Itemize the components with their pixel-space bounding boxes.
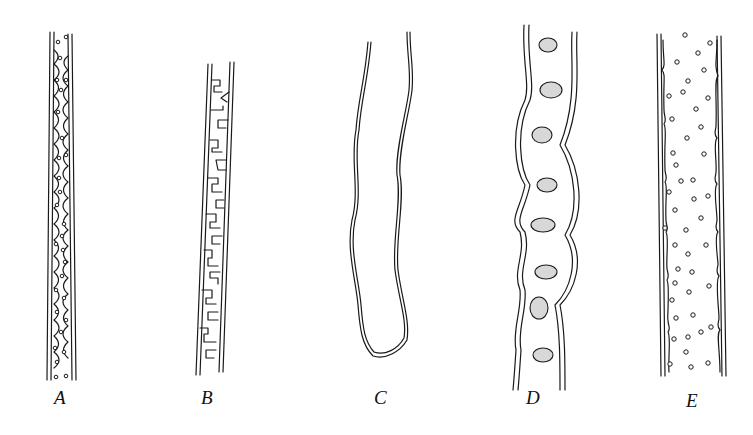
panel-label-a: A [54,387,66,409]
figure-canvas [0,0,753,435]
panel-b-drawing [196,62,234,375]
panel-label-b: B [201,387,213,409]
panel-label-e: E [686,390,698,412]
panel-a-drawing [47,32,76,380]
panel-d-drawing [513,25,579,390]
panel-label-d: D [526,387,540,409]
panel-e-drawing [657,33,726,376]
panel-c-drawing [350,32,412,357]
panel-label-c: C [374,387,387,409]
